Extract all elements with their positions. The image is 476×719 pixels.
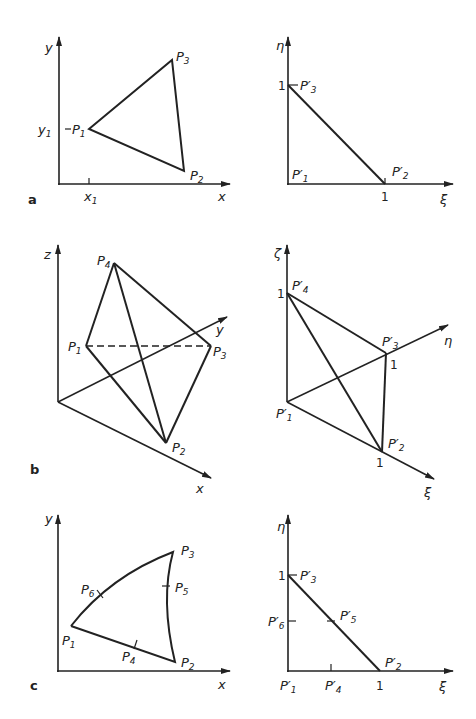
eta-one-label: 1 bbox=[278, 79, 286, 93]
xi-axis bbox=[287, 402, 434, 479]
panel-tag-a: a bbox=[28, 192, 37, 207]
panel-a-right: η ξ 1 1 P′1 P′2 P′3 bbox=[276, 37, 453, 207]
tetrahedron bbox=[86, 263, 211, 443]
panel-tag-c: c bbox=[30, 678, 38, 693]
x1-label: x1 bbox=[83, 189, 97, 206]
xi-one-label: 1 bbox=[376, 456, 384, 470]
point-label-p1-prime: P′1 bbox=[276, 406, 293, 423]
eta-axis-label: η bbox=[277, 519, 285, 534]
panel-tag-b: b bbox=[30, 462, 39, 477]
panel-b-left: z y x P1 P2 P3 P4 b bbox=[30, 245, 227, 496]
point-label-p6: P6 bbox=[81, 582, 95, 599]
y-axis-label: y bbox=[215, 322, 224, 337]
eta-one-label: 1 bbox=[390, 358, 398, 372]
point-label-p2: P2 bbox=[181, 655, 195, 672]
point-label-p5: P5 bbox=[175, 580, 189, 597]
xi-axis-label: ξ bbox=[439, 192, 448, 207]
panel-a-left: y x x1 y1 P1 P2 P3 a bbox=[28, 37, 230, 207]
point-label-p3-prime: P′3 bbox=[382, 334, 399, 351]
y-axis-label: y bbox=[44, 511, 53, 526]
point-label-p3: P3 bbox=[213, 344, 227, 361]
panel-c-left: y x P1 P2 P3 P4 P5 P6 c bbox=[30, 511, 230, 693]
point-label-p1-prime: P′1 bbox=[292, 167, 309, 184]
z-axis-label: z bbox=[43, 247, 52, 262]
y-axis-label: y bbox=[44, 40, 53, 55]
point-label-p1: P1 bbox=[68, 339, 82, 356]
eta-axis-label: η bbox=[276, 38, 284, 53]
figure-canvas: y x x1 y1 P1 P2 P3 a η ξ 1 1 P′1 P′2 P′3 bbox=[0, 0, 476, 719]
panel-b-right: ζ η ξ 1 1 1 P′1 P′2 P′3 P′4 bbox=[273, 245, 452, 500]
point-label-p2: P2 bbox=[190, 168, 204, 185]
x-axis-label: x bbox=[217, 677, 226, 692]
point-label-p1-prime: P′1 bbox=[280, 678, 297, 695]
point-label-p3-prime: P′3 bbox=[300, 78, 317, 95]
zeta-one-label: 1 bbox=[277, 287, 285, 301]
x-axis bbox=[58, 402, 211, 478]
x-axis-label: x bbox=[217, 189, 226, 204]
point-label-p4-prime: P′4 bbox=[325, 678, 342, 695]
point-label-p1: P1 bbox=[72, 122, 86, 139]
point-label-p4: P4 bbox=[97, 253, 111, 270]
point-label-p3: P3 bbox=[176, 49, 190, 66]
point-label-p1: P1 bbox=[62, 633, 76, 650]
panel-c-right: η ξ 1 1 P′1 P′2 P′3 P′4 P′5 P′6 bbox=[268, 515, 453, 695]
point-label-p3-prime: P′3 bbox=[300, 568, 317, 585]
point-label-p4: P4 bbox=[122, 649, 136, 666]
x-axis-label: x bbox=[195, 481, 204, 496]
eta-axis bbox=[287, 325, 448, 402]
curved-triangle bbox=[71, 552, 175, 662]
point-label-p2-prime: P′2 bbox=[392, 164, 409, 181]
point-label-p4-prime: P′4 bbox=[292, 278, 309, 295]
ticks bbox=[288, 575, 335, 671]
triangle bbox=[89, 60, 184, 171]
eta-axis-label: η bbox=[444, 333, 452, 348]
zeta-axis-label: ζ bbox=[273, 246, 282, 261]
xi-one-label: 1 bbox=[381, 190, 389, 204]
xi-one-label: 1 bbox=[376, 679, 384, 693]
xi-axis-label: ξ bbox=[423, 485, 432, 500]
eta-one-label: 1 bbox=[278, 569, 286, 583]
point-label-p2-prime: P′2 bbox=[385, 655, 402, 672]
hypotenuse bbox=[288, 575, 380, 671]
point-label-p6-prime: P′6 bbox=[268, 614, 285, 631]
point-label-p2-prime: P′2 bbox=[388, 436, 405, 453]
point-label-p5-prime: P′5 bbox=[340, 608, 357, 625]
point-label-p2: P2 bbox=[172, 440, 186, 457]
xi-axis-label: ξ bbox=[438, 679, 447, 694]
point-label-p3: P3 bbox=[181, 543, 195, 560]
y1-label: y1 bbox=[37, 122, 51, 139]
